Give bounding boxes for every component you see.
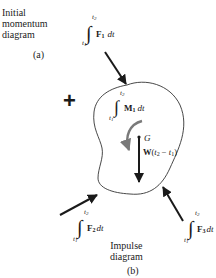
integral-sign-icon: ∫ bbox=[186, 217, 195, 241]
integral-sign-icon: ∫ bbox=[113, 97, 120, 118]
integral-sign-icon: ∫ bbox=[75, 216, 84, 240]
impulse-f2: ∫ t2 t1 F2dt bbox=[73, 208, 104, 243]
svg-text:M1dt: M1dt bbox=[124, 103, 145, 113]
svg-text:F2dt: F2dt bbox=[87, 223, 104, 233]
svg-text:t1: t1 bbox=[109, 114, 113, 122]
svg-text:t2: t2 bbox=[92, 13, 97, 21]
svg-text:t2: t2 bbox=[195, 209, 200, 217]
impulse-f1: ∫ t2 t1 F1dt bbox=[82, 13, 115, 47]
center-of-mass-label: G bbox=[144, 133, 151, 143]
force-arrow-f1 bbox=[105, 52, 126, 84]
svg-text:t2: t2 bbox=[84, 208, 89, 216]
force-arrow-f2 bbox=[60, 195, 97, 215]
svg-text:t2: t2 bbox=[120, 89, 125, 97]
force-arrow-f3 bbox=[163, 187, 183, 221]
impulse-diagram-canvas: G ∫ t2 t1 F1dt ∫ t2 t1 M1dt W(t2 − t1) ∫… bbox=[0, 0, 216, 278]
weight-impulse-label: W(t2 − t1) bbox=[143, 147, 177, 157]
impulse-f3: ∫ t2 t1 F3dt bbox=[184, 209, 214, 244]
svg-text:F3dt: F3dt bbox=[197, 224, 214, 234]
svg-text:F1dt: F1dt bbox=[96, 29, 115, 39]
impulse-m1: ∫ t2 t1 M1dt bbox=[109, 89, 145, 122]
